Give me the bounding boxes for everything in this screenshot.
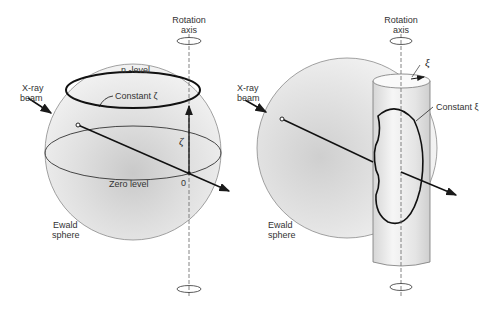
ewald-sphere-label: sphere <box>268 230 296 240</box>
crystal-point-right <box>280 117 284 121</box>
n-level-label: n -level <box>121 65 150 75</box>
ewald-sphere-label: Ewald <box>268 220 293 230</box>
origin-point <box>187 171 191 175</box>
left-panel: Rotation axis X-ray beam n -level Consta… <box>20 15 229 298</box>
rotation-axis-label: Rotation <box>172 15 206 25</box>
rotation-axis-label: Rotation <box>384 15 418 25</box>
constant-zeta-label: Constant ζ <box>115 91 158 101</box>
rotation-axis-label: axis <box>393 25 410 35</box>
ewald-sphere-label: Ewald <box>53 220 78 230</box>
xray-beam-label: X-ray <box>22 83 44 93</box>
crystal-point-left <box>76 123 80 127</box>
zero-level-label: Zero level <box>109 179 149 189</box>
rotation-axis-label: axis <box>181 25 198 35</box>
xray-beam-label: X-ray <box>237 83 259 93</box>
cylinder-top <box>373 74 430 88</box>
right-panel: Rotation axis ξ X-ray beam Constant ξ Ew… <box>237 15 479 298</box>
cylinder <box>373 81 430 266</box>
xray-beam-label: beam <box>237 93 260 103</box>
ewald-sphere-label: sphere <box>52 230 80 240</box>
ewald-sphere-diagram: Rotation axis X-ray beam n -level Consta… <box>0 0 499 309</box>
constant-xi-label: Constant ξ <box>436 102 479 112</box>
origin-label: 0 <box>181 178 186 188</box>
xray-beam-label: beam <box>20 93 43 103</box>
xi-symbol: ξ <box>425 56 430 69</box>
